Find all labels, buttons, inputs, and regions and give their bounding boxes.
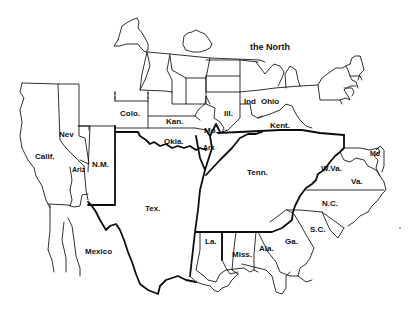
label-ill: Ill. — [224, 110, 233, 118]
label-wva: W.Va. — [321, 165, 342, 173]
label-nm: N.M. — [92, 161, 109, 169]
label-kan: Kan. — [166, 118, 183, 126]
label-tenn: Tenn. — [247, 169, 268, 177]
alaska-shape — [114, 18, 148, 52]
label-tex: Tex. — [145, 205, 160, 213]
colo-dashes — [115, 92, 148, 99]
label-okla: Okla. — [164, 138, 184, 146]
label-ark: Ark — [203, 144, 215, 151]
confederacy-boundary — [88, 124, 344, 294]
label-md: Md — [370, 150, 380, 157]
label-va: Va. — [351, 178, 363, 186]
label-ga: Ga. — [285, 238, 298, 246]
label-calif: Calif. — [35, 153, 55, 161]
label-kent: Kent. — [270, 122, 290, 130]
label-mo: Mo. — [204, 127, 218, 135]
label-miss: Miss. — [232, 251, 252, 259]
southeast-east-boundary — [258, 135, 344, 232]
label-la: La. — [205, 238, 217, 246]
north-island-shape — [183, 30, 212, 52]
label-nev: Nev — [59, 131, 74, 139]
label-nc: N.C. — [322, 200, 338, 208]
label-ala: Ala. — [259, 245, 274, 253]
stray-dot — [399, 227, 401, 229]
midwest-lines — [206, 92, 312, 132]
label-mexico: Mexico — [85, 248, 112, 256]
label-north: the North — [250, 43, 290, 52]
label-sc: S.C. — [310, 226, 326, 234]
virginia-lines — [196, 146, 386, 282]
map-drawing — [0, 0, 410, 322]
label-colo: Colo. — [120, 110, 140, 118]
label-ohio: Ohio — [261, 98, 279, 106]
label-ariz: Ariz — [72, 166, 85, 173]
label-ind: Ind — [244, 98, 256, 106]
